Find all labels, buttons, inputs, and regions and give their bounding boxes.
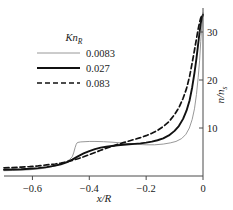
x-axis-title: x/R bbox=[96, 192, 112, 204]
legend-label-0-027: 0.027 bbox=[86, 63, 110, 74]
x-tick-label: −0.2 bbox=[137, 183, 156, 194]
y-tick-label: 30 bbox=[207, 27, 218, 38]
y-tick-label: 20 bbox=[207, 75, 218, 86]
legend-label-0-083: 0.083 bbox=[86, 78, 110, 89]
y-tick-label: 10 bbox=[207, 123, 218, 134]
legend-label-0-0083: 0.0083 bbox=[86, 48, 115, 59]
density-profile-chart: −0.6−0.4−0.20 102030 x/R n/ns KnR 0.0083… bbox=[0, 0, 233, 210]
figure-container: −0.6−0.4−0.20 102030 x/R n/ns KnR 0.0083… bbox=[0, 0, 233, 210]
legend-title-subscript: R bbox=[77, 37, 83, 46]
y-axis-title-subscript: s bbox=[220, 86, 229, 89]
x-tick-label: −0.6 bbox=[23, 183, 42, 194]
y-axis-title-main: n/n bbox=[214, 89, 226, 104]
legend-title-main: Kn bbox=[65, 32, 78, 43]
x-tick-label: 0 bbox=[200, 183, 205, 194]
